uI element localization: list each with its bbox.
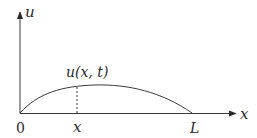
string-displacement-diagram: u x 0 x L u(x, t)	[0, 0, 257, 138]
displacement-curve	[20, 85, 192, 113]
x-axis-label: x	[240, 105, 249, 123]
curve-label: u(x, t)	[66, 64, 108, 80]
origin-label: 0	[16, 120, 25, 136]
position-label: x	[73, 118, 82, 136]
y-axis-label: u	[25, 3, 35, 21]
length-label: L	[189, 120, 199, 136]
